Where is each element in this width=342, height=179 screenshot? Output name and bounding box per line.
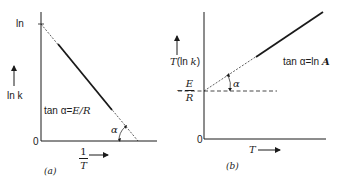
panel-a-angle-label: α xyxy=(111,125,118,135)
panel-a-y-axis-label: ln k xyxy=(7,91,23,101)
panel-a-origin-label: 0 xyxy=(33,137,39,147)
panel-b-slope-annotation: tan α=ln A xyxy=(283,57,330,67)
panel-b-y-axis-label: T(ln k) xyxy=(170,57,200,67)
panel-a-caption: (a) xyxy=(44,167,56,176)
panel-a-slope-annotation: tan α=E/R xyxy=(44,106,91,116)
panel-a-data-line xyxy=(58,44,112,110)
panel-b-intercept-sign: − xyxy=(177,86,183,96)
panel-b-caption: (b) xyxy=(226,162,239,171)
panel-b-intercept-label: E R xyxy=(185,78,194,103)
panel-b-angle-label: α xyxy=(233,79,240,89)
panel-a-x-axis-label: 1 T xyxy=(79,146,88,171)
panel-b-data-line xyxy=(256,12,323,57)
panel-b-origin-label: 0 xyxy=(197,135,203,145)
panel-a-plot xyxy=(14,12,157,155)
panel-b-plot xyxy=(177,12,326,150)
panel-b-x-axis-label: T xyxy=(249,145,256,155)
panel-a-ln-a-label: ln xyxy=(16,19,24,29)
arrhenius-diagram xyxy=(0,0,342,179)
